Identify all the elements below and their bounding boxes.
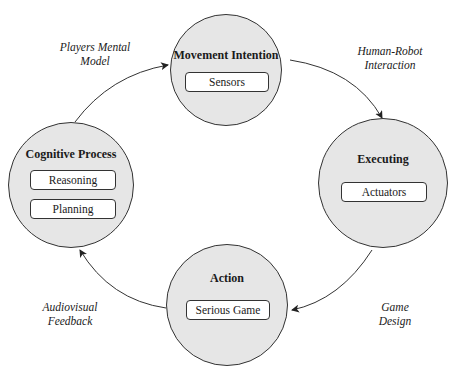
- node-title: Cognitive Process: [9, 147, 133, 162]
- node-title: Movement Intention: [171, 48, 281, 63]
- node-cognitive-process: Cognitive Process Reasoning Planning: [8, 122, 134, 248]
- edge-label-players-mental-model: Players Mental Model: [40, 40, 150, 68]
- component-box: Planning: [30, 199, 116, 219]
- component-box: Actuators: [341, 182, 427, 202]
- cycle-diagram: Movement Intention Sensors Executing Act…: [0, 0, 450, 371]
- component-box: Sensors: [185, 72, 269, 92]
- node-movement-intention: Movement Intention Sensors: [170, 14, 282, 126]
- edge-label-game-design: Game Design: [355, 300, 435, 328]
- node-title: Action: [167, 271, 287, 286]
- arrow-left-to-top: [75, 65, 168, 122]
- component-box: Reasoning: [30, 170, 116, 190]
- node-executing: Executing Actuators: [318, 118, 448, 248]
- node-title: Executing: [319, 152, 447, 167]
- component-box: Serious Game: [186, 300, 270, 320]
- edge-label-audiovisual-feedback: Audiovisual Feedback: [30, 300, 110, 328]
- edge-label-human-robot-interaction: Human-Robot Interaction: [340, 44, 440, 72]
- node-action: Action Serious Game: [166, 244, 288, 366]
